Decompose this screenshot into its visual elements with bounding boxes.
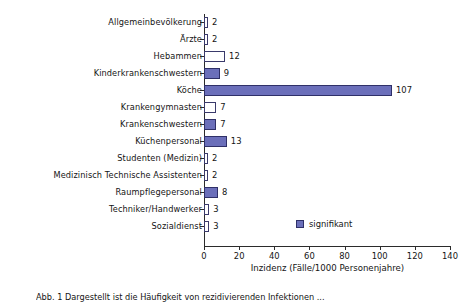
legend: signifikant bbox=[296, 219, 352, 229]
bar-nonsignificant bbox=[204, 51, 225, 62]
category-label: Raumpflegepersonal bbox=[116, 184, 202, 201]
x-axis-tick bbox=[380, 246, 381, 250]
bar-value-label: 12 bbox=[229, 48, 240, 65]
bar-value-label: 107 bbox=[396, 82, 412, 99]
figure: Allgemeinbevölkerung2Ärzte2Hebammen12Kin… bbox=[0, 0, 472, 305]
bar-row: Köche107 bbox=[0, 82, 472, 99]
category-label: Krankenschwestern bbox=[120, 116, 202, 133]
y-axis-tick bbox=[200, 175, 204, 176]
x-axis-tick bbox=[204, 246, 205, 250]
figure-caption: Abb. 1 Dargestellt ist die Häufigkeit vo… bbox=[36, 292, 436, 305]
category-label: Küchenpersonal bbox=[135, 133, 202, 150]
bar-row: Küchenpersonal13 bbox=[0, 133, 472, 150]
bar-value-label: 9 bbox=[224, 65, 229, 82]
bar-nonsignificant bbox=[204, 34, 208, 45]
x-axis-tick-label: 60 bbox=[304, 251, 315, 261]
bar-row: Techniker/Handwerker3 bbox=[0, 201, 472, 218]
bar-value-label: 8 bbox=[222, 184, 227, 201]
bar-significant bbox=[204, 85, 392, 96]
bar-row: Kinderkrankenschwestern9 bbox=[0, 65, 472, 82]
y-axis-tick bbox=[200, 56, 204, 57]
bar-nonsignificant bbox=[204, 170, 208, 181]
x-axis-tick-label: 20 bbox=[234, 251, 245, 261]
bar-row: Krankenschwestern7 bbox=[0, 116, 472, 133]
bar-significant bbox=[204, 136, 227, 147]
x-axis-tick bbox=[274, 246, 275, 250]
x-axis-tick-label: 80 bbox=[339, 251, 350, 261]
category-label: Köche bbox=[177, 82, 202, 99]
x-axis-tick bbox=[309, 246, 310, 250]
x-axis-tick-label: 0 bbox=[201, 251, 206, 261]
bar-value-label: 2 bbox=[212, 150, 217, 167]
bar-value-label: 3 bbox=[213, 218, 218, 235]
category-label: Hebammen bbox=[154, 48, 202, 65]
x-axis-tick-label: 140 bbox=[442, 251, 458, 261]
bar-nonsignificant bbox=[204, 204, 209, 215]
y-axis-tick bbox=[200, 226, 204, 227]
y-axis-tick bbox=[200, 22, 204, 23]
bar-significant bbox=[204, 119, 216, 130]
y-axis-tick bbox=[200, 39, 204, 40]
x-axis-tick bbox=[415, 246, 416, 250]
category-label: Studenten (Medizin) bbox=[117, 150, 202, 167]
bar-significant bbox=[204, 187, 218, 198]
y-axis-tick bbox=[200, 158, 204, 159]
category-label: Ärzte bbox=[180, 31, 202, 48]
bar-value-label: 2 bbox=[212, 31, 217, 48]
legend-swatch-significant bbox=[296, 220, 304, 228]
category-label: Medizinisch Technische Assistenten bbox=[53, 167, 202, 184]
bar-value-label: 7 bbox=[220, 116, 225, 133]
legend-label-significant: signifikant bbox=[309, 219, 352, 229]
bar-nonsignificant bbox=[204, 17, 208, 28]
bar-significant bbox=[204, 68, 220, 79]
bar-value-label: 2 bbox=[212, 167, 217, 184]
y-axis-tick bbox=[200, 124, 204, 125]
bar-nonsignificant bbox=[204, 153, 208, 164]
bar-chart-plot: Allgemeinbevölkerung2Ärzte2Hebammen12Kin… bbox=[0, 0, 472, 270]
bar-value-label: 7 bbox=[220, 99, 225, 116]
y-axis-tick bbox=[200, 209, 204, 210]
y-axis-tick bbox=[200, 90, 204, 91]
bar-row: Medizinisch Technische Assistenten2 bbox=[0, 167, 472, 184]
bar-value-label: 13 bbox=[231, 133, 242, 150]
bar-row: Raumpflegepersonal8 bbox=[0, 184, 472, 201]
category-label: Krankengymnasten bbox=[121, 99, 202, 116]
bar-nonsignificant bbox=[204, 102, 216, 113]
x-axis-tick-label: 100 bbox=[372, 251, 388, 261]
y-axis-tick bbox=[200, 141, 204, 142]
y-axis-tick bbox=[200, 192, 204, 193]
bar-row: Allgemeinbevölkerung2 bbox=[0, 14, 472, 31]
category-label: Kinderkrankenschwestern bbox=[94, 65, 202, 82]
bar-row: Ärzte2 bbox=[0, 31, 472, 48]
bar-nonsignificant bbox=[204, 221, 209, 232]
x-axis-title: Inzidenz (Fälle/1000 Personenjahre) bbox=[204, 263, 451, 273]
category-label: Allgemeinbevölkerung bbox=[108, 14, 202, 31]
x-axis-tick bbox=[345, 246, 346, 250]
x-axis-tick-label: 40 bbox=[269, 251, 280, 261]
x-axis-tick bbox=[239, 246, 240, 250]
bar-row: Hebammen12 bbox=[0, 48, 472, 65]
y-axis-tick bbox=[200, 73, 204, 74]
bar-value-label: 3 bbox=[213, 201, 218, 218]
y-axis-tick bbox=[200, 107, 204, 108]
category-label: Techniker/Handwerker bbox=[109, 201, 202, 218]
category-label: Sozialdienst bbox=[152, 218, 202, 235]
x-axis-tick bbox=[450, 246, 451, 250]
bar-value-label: 2 bbox=[212, 14, 217, 31]
x-axis-tick-label: 120 bbox=[407, 251, 423, 261]
bar-row: Krankengymnasten7 bbox=[0, 99, 472, 116]
bar-row: Sozialdienst3 bbox=[0, 218, 472, 235]
bar-row: Studenten (Medizin)2 bbox=[0, 150, 472, 167]
